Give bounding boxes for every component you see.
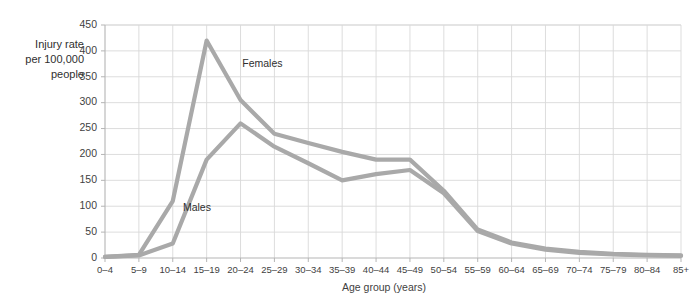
series-line-males — [105, 123, 681, 257]
y-axis-title-group: Injury rate per 100,000 people — [25, 38, 84, 80]
y-axis-tick-label: 400 — [79, 44, 97, 56]
x-axis-tick-label: 25–29 — [261, 264, 287, 275]
y-axis-tick-label: 300 — [79, 95, 97, 107]
x-axis-tick-label: 30–34 — [295, 264, 321, 275]
y-axis-tick-label: 350 — [79, 70, 97, 82]
x-axis-tick-label: 0–4 — [97, 264, 113, 275]
y-axis-tick-label: 150 — [79, 173, 97, 185]
chart-canvas: Injury rate per 100,000 people 050100150… — [0, 0, 692, 305]
y-axis-tick-labels: 050100150200250300350400450 — [79, 18, 97, 263]
axes — [101, 25, 681, 262]
x-axis-tick-label: 15–19 — [193, 264, 219, 275]
x-axis-tick-labels: 0–45–910–1415–1920–2425–2930–3435–3940–4… — [97, 264, 689, 275]
x-axis-tick-label: 5–9 — [131, 264, 147, 275]
y-axis-title-line-1: Injury rate — [35, 38, 84, 50]
x-axis-tick-label: 45–49 — [397, 264, 423, 275]
x-axis-tick-label: 10–14 — [160, 264, 186, 275]
x-axis-tick-label: 75–79 — [600, 264, 626, 275]
x-axis-tick-label: 80–84 — [634, 264, 660, 275]
x-axis-tick-label: 70–74 — [566, 264, 592, 275]
x-axis-tick-label: 40–44 — [363, 264, 389, 275]
data-series-lines — [105, 41, 681, 257]
x-axis-tick-label: 20–24 — [227, 264, 253, 275]
x-axis-title: Age group (years) — [342, 281, 426, 293]
x-axis-tick-label: 65–69 — [532, 264, 558, 275]
x-axis-tick-label: 35–39 — [329, 264, 355, 275]
x-axis-tick-label: 55–59 — [464, 264, 490, 275]
y-axis-title-line-2: per 100,000 — [25, 53, 84, 65]
y-axis-tick-label: 100 — [79, 199, 97, 211]
series-line-females — [105, 41, 681, 257]
y-axis-tick-label: 200 — [79, 147, 97, 159]
x-axis-tick-label: 50–54 — [431, 264, 457, 275]
y-axis-tick-label: 0 — [91, 251, 97, 263]
x-axis-tick-label: 60–64 — [498, 264, 524, 275]
y-axis-tick-label: 50 — [85, 225, 97, 237]
gridlines — [105, 25, 681, 258]
series-label-females: Females — [242, 57, 282, 69]
y-axis-tick-label: 450 — [79, 18, 97, 30]
y-axis-tick-label: 250 — [79, 121, 97, 133]
x-axis-tick-label: 85+ — [673, 264, 690, 275]
series-label-males: Males — [183, 201, 211, 213]
injury-rate-line-chart: Injury rate per 100,000 people 050100150… — [0, 0, 692, 305]
